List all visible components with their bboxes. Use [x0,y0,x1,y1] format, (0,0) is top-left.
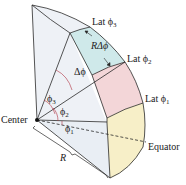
label-lat2: Lat ϕ2 [127,54,152,66]
label-lat1: Lat ϕ1 [145,94,170,106]
label-phi1: ϕ1 [65,124,74,136]
label-arc-length: RΔϕ [91,41,108,51]
label-phi2: ϕ2 [60,107,69,119]
label-lat3: Lat ϕ3 [92,17,117,29]
label-center: Center [1,115,28,125]
label-delta-phi: Δϕ [74,67,86,77]
label-radius: R [60,153,66,163]
label-equator: Equator [148,142,180,152]
center-point [35,118,39,122]
label-phi3: ϕ3 [47,94,56,106]
